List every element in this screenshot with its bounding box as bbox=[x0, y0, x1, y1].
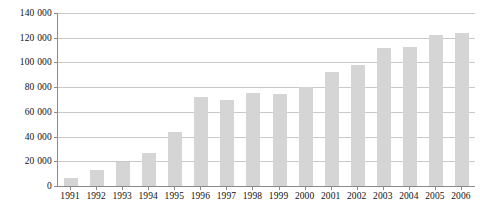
x-tick-label: 2002 bbox=[347, 190, 366, 202]
y-tick-label: 20 000 bbox=[25, 156, 52, 166]
y-tick-label: 100 000 bbox=[20, 57, 52, 67]
bar bbox=[220, 100, 234, 186]
x-axis: 1991199219931994199519961997199819992000… bbox=[57, 190, 474, 210]
bar bbox=[246, 93, 260, 186]
plot-area bbox=[57, 13, 475, 186]
x-tick-label: 2006 bbox=[451, 190, 470, 202]
gridline bbox=[58, 186, 475, 187]
x-tick-label: 1994 bbox=[139, 190, 158, 202]
x-tick-label: 1998 bbox=[243, 190, 262, 202]
bar bbox=[168, 132, 182, 186]
bar bbox=[273, 94, 287, 186]
y-tick-label: 60 000 bbox=[25, 107, 52, 117]
y-axis: 020 00040 00060 00080 000100 000120 0001… bbox=[0, 0, 56, 215]
x-tick-label: 1993 bbox=[112, 190, 131, 202]
bar bbox=[64, 178, 78, 186]
x-tick-label: 2003 bbox=[373, 190, 392, 202]
bar bbox=[90, 170, 104, 186]
y-tick-label: 80 000 bbox=[25, 82, 52, 92]
bar bbox=[116, 162, 130, 186]
bar bbox=[403, 47, 417, 186]
bar bbox=[351, 65, 365, 186]
y-tickmark bbox=[54, 186, 58, 187]
x-tick-label: 2005 bbox=[425, 190, 444, 202]
bar-chart: 020 00040 00060 00080 000100 000120 0001… bbox=[0, 0, 480, 215]
x-tick-label: 1996 bbox=[191, 190, 210, 202]
bar bbox=[299, 87, 313, 186]
y-tick-label: 140 000 bbox=[20, 8, 52, 18]
bar bbox=[455, 33, 469, 186]
x-tick-label: 1992 bbox=[86, 190, 105, 202]
x-tick-label: 2000 bbox=[295, 190, 314, 202]
x-tick-label: 1997 bbox=[217, 190, 236, 202]
bar bbox=[429, 35, 443, 186]
bar bbox=[325, 72, 339, 186]
y-tick-label: 0 bbox=[47, 181, 52, 191]
x-tick-label: 1991 bbox=[60, 190, 79, 202]
x-tick-label: 2001 bbox=[321, 190, 340, 202]
bar bbox=[142, 153, 156, 186]
x-tick-label: 1995 bbox=[165, 190, 184, 202]
x-tick-label: 1999 bbox=[269, 190, 288, 202]
y-tick-label: 40 000 bbox=[25, 132, 52, 142]
bar bbox=[194, 97, 208, 186]
bar bbox=[377, 48, 391, 186]
y-tick-label: 120 000 bbox=[20, 33, 52, 43]
bar-series bbox=[58, 13, 475, 186]
x-tick-label: 2004 bbox=[399, 190, 418, 202]
